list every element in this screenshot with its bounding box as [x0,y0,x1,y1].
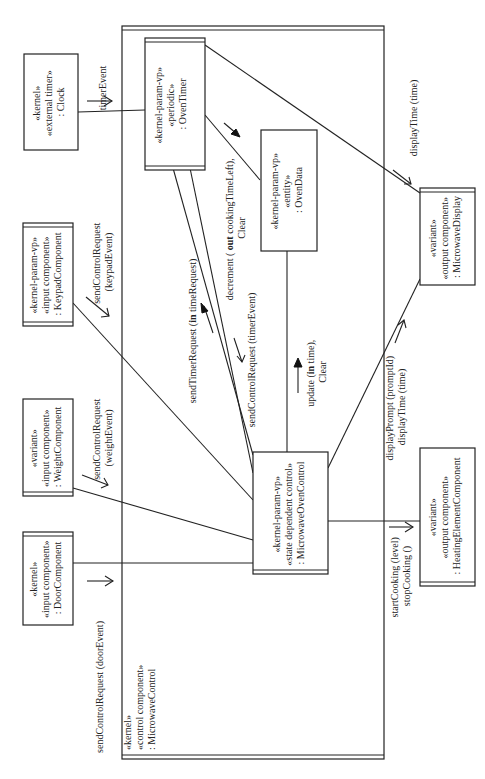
container-stereotype-control: «control component» [134,665,145,750]
heating-stereotype-2: «output component» [439,476,450,559]
oven-control-name: : MicrowaveOvenControl [295,461,306,564]
arrow-cooking [389,522,413,532]
label-timer-control-request: sendControlRequest (timerEvent) [246,293,258,428]
display-stereotype-2: «output component» [439,197,450,280]
display-name: : MicrowaveDisplay [451,196,462,278]
svg-text:«kernel-param-vp» «state: «kernel-param-vp» «state dependent contr… [271,460,306,565]
door-component[interactable]: «kernel» «input component» : DoorCompone… [23,532,73,625]
label-keypad-request: sendControlRequest (keypadEvent) [91,220,115,304]
arrow-display-prompt [395,320,406,343]
oven-data-component[interactable]: «kernel-param-vp» «entity» : OvenData [261,130,317,251]
communication-diagram: «kernel» «control component» : Microwave… [0,0,485,779]
label-timer-event: timerEvent [97,66,108,111]
arrow-display-time [393,170,411,184]
heating-element-component[interactable]: «variant» «output component» : HeatingEl… [420,448,475,586]
oven-timer-name: : OvenTimer [177,78,188,130]
door-stereotype-2: «input component» [40,541,51,619]
keypad-stereotype-2: «input component» [40,237,51,315]
microwave-display-component[interactable]: «variant» «output component» : Microwave… [420,188,475,285]
oven-control-stereotype-2: «state dependent control» [283,463,294,566]
oven-data-stereotype-1: «kernel-param-vp» [269,153,280,230]
oven-control-stereotype-1: «kernel-param-vp» [271,476,282,553]
heating-stereotype-1: «variant» [427,498,438,536]
oven-data-name: : OvenData [293,167,304,213]
label-display-prompt: displayPrompt (promptId) displayTime (ti… [384,353,408,460]
clock-name: : Clock [55,87,66,116]
door-name: : DoorComponent [52,542,63,615]
weight-component[interactable]: «variant» «input component» : WeightComp… [23,399,73,496]
oven-data-stereotype-2: «entity» [281,175,292,208]
label-send-timer-request: sendTimerRequest (in timeRequest) [187,259,199,404]
svg-text:«kernel-param-vp» «input: «kernel-param-vp» «input component» : Ke… [28,232,63,315]
label-door-request: sendControlRequest (doorEvent) [94,621,106,753]
clock-stereotype-2: «external timer» [43,70,54,136]
label-display-time: displayTime (time) [408,80,420,157]
keypad-name: : KeypadComponent [52,232,63,315]
clock-component[interactable]: «kernel» «external timer» : Clock [24,54,78,150]
oven-timer-stereotype-2: «periodic» [165,84,176,127]
oven-timer-stereotype-1: «kernel-param-vp» [153,67,164,144]
label-cooking: startCooking (level) stopCooking () [389,535,413,618]
door-stereotype-1: «kernel» [28,562,39,597]
weight-name: : WeightComponent [52,407,63,488]
keypad-component[interactable]: «kernel-param-vp» «input component» : Ke… [23,223,73,326]
oven-timer-component[interactable]: «kernel-param-vp» «periodic» : OvenTimer [145,38,205,170]
display-stereotype-1: «variant» [427,219,438,257]
microwave-oven-control-component[interactable]: «kernel-param-vp» «state dependent contr… [253,452,328,574]
arrow-door-event [87,576,113,586]
heating-name: : HeatingElementComponent [451,457,462,574]
container-name: : MicrowaveControl [146,668,157,750]
label-weight-request: sendControlRequest (weightEvent) [91,396,115,480]
weight-stereotype-2: «input component» [40,410,51,488]
weight-stereotype-1: «variant» [28,429,39,467]
keypad-stereotype-1: «kernel-param-vp» [28,237,39,314]
clock-stereotype-1: «kernel» [31,86,42,121]
container-stereotype-kernel: «kernel» [122,715,133,750]
